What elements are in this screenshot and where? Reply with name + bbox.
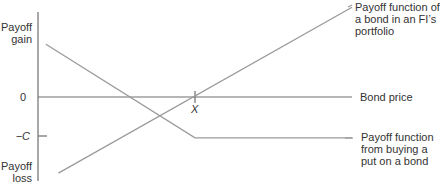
payoff-loss-line2: loss [0, 172, 32, 184]
annotation-bond-payoff: Payoff function of a bond in an FI’s por… [355, 1, 440, 37]
y-tick-label-zero: 0 [0, 91, 26, 103]
y-label-payoff-loss: Payoff loss [0, 160, 32, 184]
bond-payoff-line [58, 7, 352, 173]
x-axis-label-bond-price: Bond price [360, 91, 413, 103]
y-label-payoff-gain: Payoff gain [0, 21, 32, 45]
y-tick-label-minus-c: −C [0, 130, 30, 142]
annotation-put-payoff: Payoff function from buying a put on a b… [361, 131, 434, 167]
bond-fn-line1: Payoff function of [355, 1, 440, 13]
x-tick-label-x: X [191, 103, 198, 115]
put-fn-line3: put on a bond [361, 155, 434, 167]
put-fn-line2: from buying a [361, 143, 434, 155]
bond-fn-line2: a bond in an FI’s [355, 13, 440, 25]
payoff-gain-line1: Payoff [0, 21, 32, 33]
payoff-loss-line1: Payoff [0, 160, 32, 172]
payoff-gain-line2: gain [0, 33, 32, 45]
bond-leader-line [348, 5, 352, 7]
put-fn-line1: Payoff function [361, 131, 434, 143]
put-payoff-line [46, 44, 352, 138]
bond-fn-line3: portfolio [355, 25, 440, 37]
